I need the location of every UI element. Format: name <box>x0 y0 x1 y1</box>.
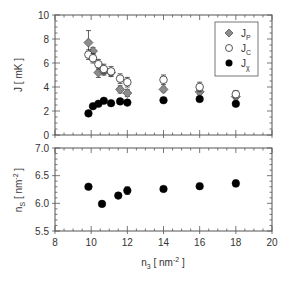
filled-circle-marker <box>116 98 124 106</box>
open-circle-marker <box>196 83 204 91</box>
x-tick-label: 18 <box>230 237 242 248</box>
open-circle-marker <box>160 76 168 84</box>
legend-box <box>215 22 258 76</box>
chart-figure: 0246810 5.56.06.57.08101214161820 JPJCJχ… <box>0 0 290 282</box>
filled-circle-marker <box>196 182 204 190</box>
filled-circle-marker <box>114 192 122 200</box>
bottom-panel-plot: 5.56.06.57.08101214161820 <box>35 143 278 249</box>
x-tick-label: 10 <box>86 237 98 248</box>
filled-circle-marker <box>160 96 168 104</box>
y-tick-label: 8 <box>43 34 49 45</box>
x-tick-label: 8 <box>52 237 58 248</box>
filled-circle-marker <box>124 99 132 107</box>
y-tick-label: 6 <box>43 58 49 69</box>
filled-circle-marker <box>124 187 132 195</box>
filled-circle-marker <box>85 183 93 191</box>
open-circle-marker <box>89 54 97 62</box>
y-tick-label: 2 <box>43 106 49 117</box>
x-tick-label: 20 <box>266 237 278 248</box>
diamond-marker <box>159 85 168 94</box>
legend-open-circle-icon <box>226 45 233 52</box>
diamond-marker <box>84 38 93 47</box>
chart-legend: JPJCJχ <box>215 22 258 76</box>
legend-filled-circle-icon <box>226 60 233 67</box>
open-circle-marker <box>116 75 124 83</box>
y-tick-label: 4 <box>43 82 49 93</box>
y-tick-label: 5.5 <box>35 226 49 237</box>
x-tick-label: 14 <box>158 237 170 248</box>
y-tick-label: 7.0 <box>35 143 49 154</box>
x-tick-label: 16 <box>194 237 206 248</box>
filled-circle-marker <box>100 97 108 105</box>
y-tick-label: 0 <box>43 130 49 141</box>
filled-circle-marker <box>160 185 168 193</box>
series-n-s <box>85 180 240 208</box>
open-circle-marker <box>124 78 132 86</box>
filled-circle-marker <box>196 95 204 103</box>
series-j-x <box>85 95 240 117</box>
y-axis-label-ns: nS [ nm-2 ] <box>12 168 26 212</box>
filled-circle-marker <box>107 99 115 107</box>
y-axis-label-j: J [ mK ] <box>13 58 24 92</box>
filled-circle-marker <box>85 110 93 118</box>
filled-circle-marker <box>232 100 240 108</box>
open-circle-marker <box>107 68 115 76</box>
open-circle-marker <box>232 90 240 98</box>
y-tick-label: 6.5 <box>35 170 49 181</box>
x-axis-label-n3: n3 [ nm-2 ] <box>141 256 185 270</box>
open-circle-marker <box>100 65 108 73</box>
y-tick-label: 6.0 <box>35 198 49 209</box>
x-tick-label: 12 <box>122 237 134 248</box>
y-tick-label: 10 <box>38 10 50 21</box>
filled-circle-marker <box>98 200 106 208</box>
filled-circle-marker <box>232 180 240 188</box>
